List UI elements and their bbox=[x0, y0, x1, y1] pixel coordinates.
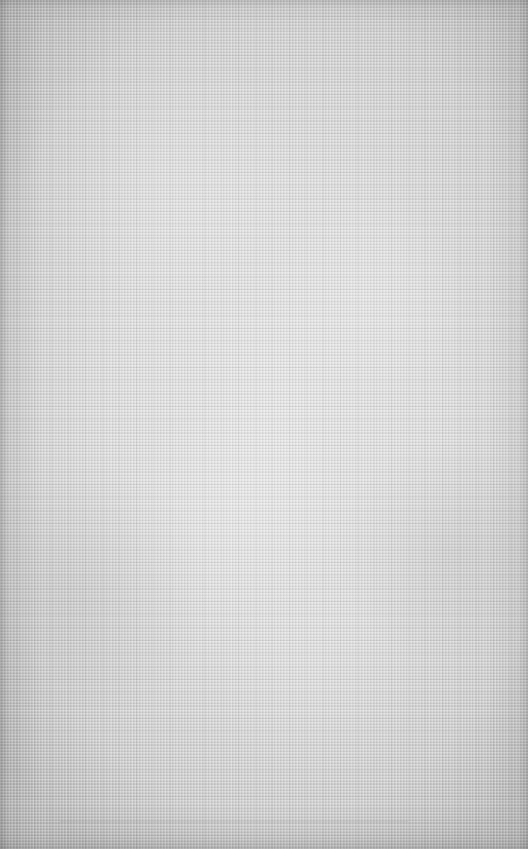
linen-background bbox=[0, 0, 528, 849]
edge-vignette bbox=[0, 0, 528, 849]
fabric-seam bbox=[60, 821, 408, 822]
